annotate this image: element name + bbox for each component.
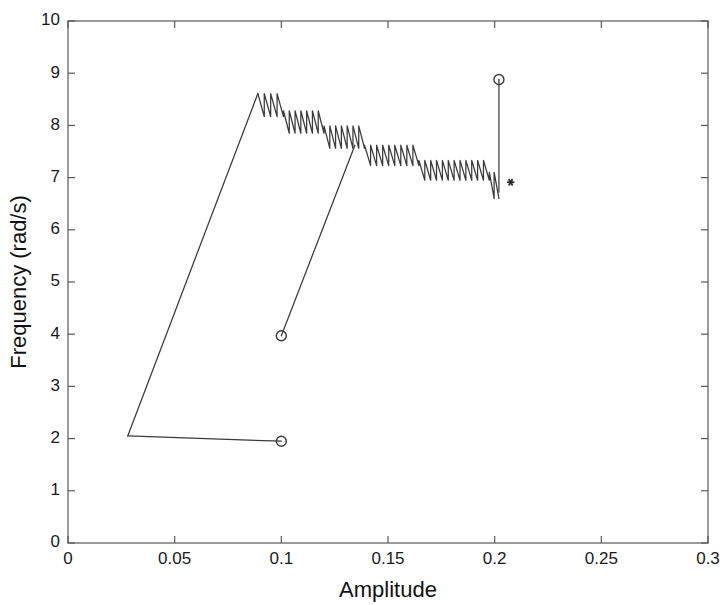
- y-tick-label: 5: [51, 271, 60, 290]
- plot-frame: [68, 21, 708, 543]
- x-tick-label: 0.05: [158, 549, 191, 568]
- y-tick-label: 6: [51, 219, 60, 238]
- x-tick-label: 0.3: [696, 549, 720, 568]
- x-tick-label: 0.15: [371, 549, 404, 568]
- x-tick-label: 0.2: [483, 549, 507, 568]
- x-tick-label: 0.25: [585, 549, 618, 568]
- x-axis-ticks: [68, 21, 708, 543]
- data-series-group: [128, 79, 499, 441]
- y-tick-label: 9: [51, 63, 60, 82]
- branch-2-ascending-ramp: [281, 145, 355, 336]
- y-tick-label: 2: [51, 428, 60, 447]
- branch-1-ascending-ramp: [128, 94, 258, 436]
- y-tick-label: 1: [51, 480, 60, 499]
- chart-canvas: 00.050.10.150.20.250.3 012345678910 Ampl…: [0, 0, 727, 605]
- x-tick-label: 0.1: [270, 549, 294, 568]
- y-tick-label: 3: [51, 376, 60, 395]
- x-axis-title: Amplitude: [339, 577, 437, 602]
- y-axis-title: Frequency (rad/s): [6, 195, 31, 369]
- asterisk-marker: [507, 179, 514, 185]
- figure-container: 00.050.10.150.20.250.3 012345678910 Ampl…: [0, 0, 727, 605]
- branch-1-sawtooth-plateaus: [258, 94, 499, 199]
- branch-1-lower-horizontal: [128, 436, 282, 441]
- x-tick-label: 0: [63, 549, 72, 568]
- y-axis-tick-labels: 012345678910: [41, 10, 60, 551]
- y-tick-label: 0: [51, 532, 60, 551]
- y-tick-label: 7: [51, 167, 60, 186]
- x-axis-tick-labels: 00.050.10.150.20.250.3: [63, 549, 720, 568]
- y-tick-label: 4: [51, 324, 60, 343]
- y-tick-label: 8: [51, 115, 60, 134]
- y-tick-label: 10: [41, 10, 60, 29]
- y-axis-ticks: [68, 21, 708, 543]
